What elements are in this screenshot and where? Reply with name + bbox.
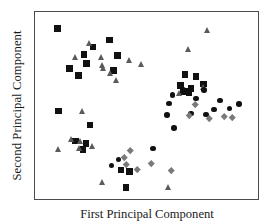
data-point-circle bbox=[201, 87, 207, 93]
data-point-diamond bbox=[127, 147, 133, 153]
data-point-triangle bbox=[99, 179, 105, 185]
data-point-triangle bbox=[165, 184, 171, 190]
data-point-circle bbox=[164, 112, 170, 118]
data-point-triangle bbox=[98, 54, 104, 60]
data-point-circle bbox=[217, 98, 223, 104]
data-point-diamond bbox=[221, 114, 227, 120]
data-point-square bbox=[87, 122, 94, 129]
data-point-square bbox=[123, 184, 130, 191]
data-point-diamond bbox=[134, 166, 140, 172]
data-point-circle bbox=[166, 101, 172, 107]
data-point-triangle bbox=[138, 61, 144, 67]
data-point-square bbox=[83, 60, 90, 67]
y-axis-label-text: Second Principal Component bbox=[10, 30, 25, 180]
data-point-circle bbox=[170, 92, 176, 98]
data-point-square bbox=[54, 25, 61, 32]
data-point-circle bbox=[109, 163, 115, 169]
data-point-square bbox=[106, 37, 113, 44]
data-point-square bbox=[55, 108, 62, 115]
data-point-triangle bbox=[185, 46, 191, 52]
data-point-triangle bbox=[100, 65, 106, 71]
data-point-diamond bbox=[148, 160, 154, 166]
data-point-triangle bbox=[76, 145, 82, 151]
data-point-circle bbox=[180, 87, 186, 93]
x-axis-label: First Principal Component bbox=[34, 207, 260, 224]
y-axis-label: Second Principal Component bbox=[0, 0, 34, 210]
data-point-triangle bbox=[113, 77, 119, 83]
data-point-square bbox=[75, 72, 82, 79]
data-point-circle bbox=[150, 146, 156, 152]
data-point-triangle bbox=[126, 57, 132, 63]
data-point-triangle bbox=[204, 27, 210, 33]
plot-frame bbox=[34, 11, 259, 200]
data-point-triangle bbox=[55, 146, 61, 152]
data-point-diamond bbox=[229, 114, 235, 120]
data-point-square bbox=[182, 71, 189, 78]
scatter-plot-figure: Second Principal Component First Princip… bbox=[0, 0, 270, 224]
data-point-square bbox=[66, 65, 73, 72]
data-point-circle bbox=[236, 101, 242, 107]
data-point-diamond bbox=[123, 161, 129, 167]
data-point-diamond bbox=[168, 167, 174, 173]
data-point-square bbox=[81, 51, 88, 58]
data-point-square bbox=[114, 52, 121, 59]
data-point-square bbox=[126, 168, 133, 175]
data-point-circle bbox=[171, 125, 177, 131]
data-point-circle bbox=[227, 106, 233, 112]
data-point-square bbox=[186, 90, 193, 97]
data-point-triangle bbox=[89, 143, 95, 149]
data-point-triangle bbox=[79, 108, 85, 114]
data-point-triangle bbox=[86, 40, 92, 46]
data-point-triangle bbox=[77, 138, 83, 144]
plot-area bbox=[35, 12, 258, 199]
data-point-circle bbox=[211, 107, 217, 113]
data-point-diamond bbox=[192, 101, 198, 107]
data-point-triangle bbox=[72, 54, 78, 60]
data-point-triangle bbox=[68, 136, 74, 142]
data-point-triangle bbox=[107, 70, 113, 76]
data-point-square bbox=[193, 73, 200, 80]
data-point-diamond bbox=[121, 154, 127, 160]
data-point-square bbox=[118, 167, 125, 174]
data-point-diamond bbox=[186, 112, 192, 118]
